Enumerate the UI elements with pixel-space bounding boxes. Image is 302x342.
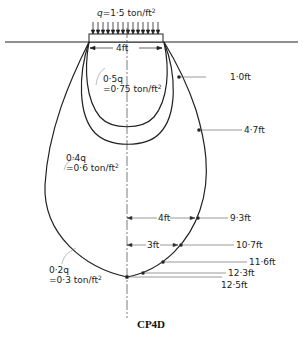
offset-label-3ft: 3ft — [147, 240, 159, 250]
footing — [89, 34, 163, 42]
offset-label-4ft: 4ft — [158, 213, 170, 223]
depth-label-4-7ft: 4·7ft — [244, 125, 265, 135]
depth-label-12-5ft: 12·5ft — [221, 280, 248, 290]
depth-label-11-6ft: 11·6ft — [249, 257, 276, 267]
footing-width-label: 4ft — [116, 43, 128, 53]
contour-label-0-5q: 0·5q =0·75 ton/ft2 — [103, 74, 162, 94]
pressure-bulb-diagram — [0, 0, 302, 342]
load-label: qq=1·5 ton/ft=1·5 ton/ft2 — [97, 8, 156, 18]
depth-marker-lines — [125, 75, 247, 278]
depth-label-10-7ft: 10·7ft — [236, 240, 263, 250]
contour-label-0-2q: 0·2q =0·3 ton/ft2 — [49, 265, 102, 285]
contour-label-0-4q: 0·4q =0·6 ton/ft2 — [66, 153, 119, 173]
depth-label-1-0ft: 1·0ft — [230, 72, 251, 82]
load-arrows — [91, 22, 159, 34]
depth-label-9-3ft: 9·3ft — [230, 213, 251, 223]
depth-label-12-3ft: 12·3ft — [228, 268, 255, 278]
figure-caption: CP4D — [0, 318, 302, 330]
